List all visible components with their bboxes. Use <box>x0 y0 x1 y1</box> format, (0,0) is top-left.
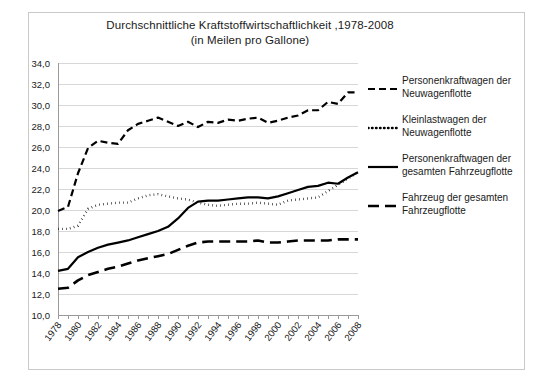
legend-swatch-long-dashed <box>368 195 398 199</box>
x-axis-tick-label: 1998 <box>242 319 264 342</box>
x-axis-tick-label: 2000 <box>262 319 284 342</box>
y-axis-tick-label: 22,0 <box>32 184 51 195</box>
y-axis-tick-label: 34,0 <box>32 58 51 69</box>
legend-swatch-dashed <box>368 78 398 82</box>
x-axis-tick-label: 2002 <box>282 319 304 342</box>
chart-legend: Personenkraftwagen der NeuwagenflotteKle… <box>368 74 518 230</box>
legend-item: Personenkraftwagen der gesamten Fahrzeug… <box>368 152 518 178</box>
legend-item-label: Personenkraftwagen der Neuwagenflotte <box>402 74 518 100</box>
series-line-1 <box>58 92 358 211</box>
y-axis-tick-label: 24,0 <box>32 163 51 174</box>
x-axis-tick-label: 2006 <box>322 319 344 342</box>
legend-item: Fahrzeug der gesamten Fahrzeugflotte <box>368 191 518 217</box>
x-axis-tick-label: 1980 <box>62 319 84 342</box>
chart-figure: Durchschnittliche Kraftstoffwirtschaftli… <box>0 0 539 383</box>
legend-item-label: Kleinlastwagen der Neuwagenflotte <box>402 113 518 139</box>
x-axis-tick-label: 1986 <box>122 319 144 342</box>
y-axis-tick-label: 30,0 <box>32 100 51 111</box>
legend-swatch-solid <box>368 156 398 160</box>
x-axis-tick-label: 2008 <box>342 319 364 342</box>
y-axis-tick-label: 18,0 <box>32 226 51 237</box>
x-axis-tick-label: 1990 <box>162 319 184 342</box>
x-axis-tick-label: 1994 <box>202 319 224 342</box>
y-axis-tick-label: 20,0 <box>32 205 51 216</box>
series-line-3 <box>58 172 358 271</box>
y-axis-tick-label: 26,0 <box>32 142 51 153</box>
x-axis-tick-label: 1984 <box>102 319 124 342</box>
x-axis-tick-label: 1978 <box>42 319 64 342</box>
x-axis-tick-label: 1988 <box>142 319 164 342</box>
legend-item: Kleinlastwagen der Neuwagenflotte <box>368 113 518 139</box>
y-axis-tick-label: 12,0 <box>32 289 51 300</box>
legend-swatch-dotted <box>368 117 398 121</box>
x-axis-tick-label: 1996 <box>222 319 244 342</box>
y-axis-tick-label: 32,0 <box>32 79 51 90</box>
y-axis-tick-label: 16,0 <box>32 247 51 258</box>
y-axis-tick-label: 28,0 <box>32 121 51 132</box>
x-axis-tick-label: 1992 <box>182 319 204 342</box>
y-axis-tick-label: 10,0 <box>32 310 51 321</box>
legend-item-label: Personenkraftwagen der gesamten Fahrzeug… <box>402 152 518 178</box>
y-axis-tick-label: 14,0 <box>32 268 51 279</box>
x-axis-tick-label: 2004 <box>302 319 324 342</box>
legend-item: Personenkraftwagen der Neuwagenflotte <box>368 74 518 100</box>
x-axis-tick-label: 1982 <box>82 319 104 342</box>
legend-item-label: Fahrzeug der gesamten Fahrzeugflotte <box>402 191 518 217</box>
